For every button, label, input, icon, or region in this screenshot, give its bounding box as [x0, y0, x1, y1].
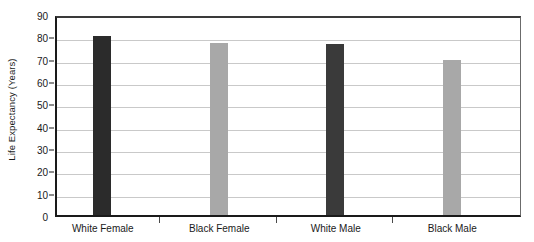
x-axis-tick-labels: White FemaleBlack FemaleWhite MaleBlack …: [55, 223, 521, 242]
y-axis-title-label: Life Expectancy (Years): [6, 58, 17, 160]
bars-layer: [57, 18, 520, 215]
y-axis-tick-mark: [49, 60, 54, 61]
y-axis-tick-label: 10: [37, 189, 48, 200]
x-axis-tick-label: White Female: [72, 223, 134, 234]
y-axis-tick-label: 90: [37, 11, 48, 22]
x-axis-tick-label: White Male: [311, 223, 361, 234]
plot-area: [55, 16, 521, 217]
x-axis-minor-tick: [159, 217, 160, 223]
y-axis-tick-mark: [49, 194, 54, 195]
y-axis-tick-label: 60: [37, 78, 48, 89]
y-axis-title: Life Expectancy (Years): [0, 0, 22, 218]
y-axis-tick-mark: [49, 105, 54, 106]
bar: [326, 44, 344, 215]
x-axis-tick-label: Black Female: [189, 223, 250, 234]
bar: [93, 36, 111, 215]
y-axis-tick-label: 40: [37, 122, 48, 133]
x-axis-minor-tick: [276, 217, 277, 223]
bar: [210, 43, 228, 215]
x-axis-tick-label: Black Male: [428, 223, 477, 234]
y-axis-tick-mark: [49, 38, 54, 39]
y-axis-tick-label: 50: [37, 100, 48, 111]
y-axis-tick-labels: 9080706050403020100: [22, 16, 54, 217]
y-axis-tick-mark: [49, 150, 54, 151]
y-axis-tick-label: 70: [37, 55, 48, 66]
y-axis-tick-label: 0: [42, 212, 48, 223]
bar-chart: Life Expectancy (Years) 9080706050403020…: [0, 0, 534, 242]
y-axis-tick-label: 80: [37, 33, 48, 44]
y-axis-tick-mark: [49, 172, 54, 173]
y-axis-tick-mark: [49, 127, 54, 128]
y-axis-tick-label: 30: [37, 145, 48, 156]
bar: [443, 60, 461, 215]
x-axis-minor-tick: [392, 217, 393, 223]
y-axis-tick-label: 20: [37, 167, 48, 178]
y-axis-tick-mark: [49, 83, 54, 84]
